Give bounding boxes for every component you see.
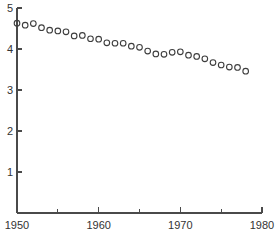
data-point (63, 29, 69, 35)
data-point (137, 45, 143, 51)
y-tick-label-4: 4 (7, 43, 13, 55)
y-tick-label-1: 1 (7, 166, 13, 178)
x-tick-label-1950: 1950 (5, 219, 29, 231)
x-tick-label-1980: 1980 (250, 219, 274, 231)
data-point (120, 40, 126, 46)
tick-labels-group: 123451950196019701980 (5, 2, 274, 231)
data-point (88, 36, 94, 42)
data-point (210, 60, 216, 66)
data-point (202, 56, 208, 62)
data-point (80, 33, 86, 39)
ticks-group (17, 8, 262, 213)
data-point (227, 64, 233, 70)
x-tick-label-1970: 1970 (168, 219, 192, 231)
scatter-plot: 123451950196019701980 (0, 0, 278, 237)
axes-group (17, 8, 262, 213)
data-point (55, 28, 61, 34)
data-point (178, 49, 184, 55)
data-point (194, 54, 200, 60)
y-tick-label-3: 3 (7, 84, 13, 96)
data-point (169, 49, 175, 55)
data-point (218, 62, 224, 68)
data-point (96, 36, 102, 42)
data-point (104, 40, 110, 46)
x-tick-label-1960: 1960 (86, 219, 110, 231)
data-point (186, 52, 192, 58)
y-tick-label-5: 5 (7, 2, 13, 14)
data-point (112, 40, 118, 46)
data-point (71, 33, 77, 39)
data-markers-group (14, 20, 248, 74)
data-point (235, 65, 241, 71)
data-point (22, 22, 28, 28)
data-point (153, 51, 159, 57)
data-point (31, 21, 37, 27)
data-point (129, 43, 135, 49)
data-point (161, 52, 167, 58)
data-point (47, 27, 53, 33)
chart-container: 123451950196019701980 (0, 0, 278, 237)
data-point (243, 68, 249, 74)
data-point (145, 48, 151, 54)
data-point (39, 25, 45, 31)
y-tick-label-2: 2 (7, 125, 13, 137)
